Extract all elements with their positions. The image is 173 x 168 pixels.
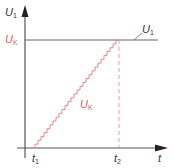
diagram-canvas: U1 UK U1 UK t1 t2 t <box>0 0 173 168</box>
y-axis-label-uk: UK <box>5 33 18 46</box>
u1-leader <box>134 33 142 40</box>
t1-label: t1 <box>32 152 39 165</box>
x-axis-arrow-icon <box>155 145 168 152</box>
x-axis-label-t: t <box>158 152 162 164</box>
y-axis-label-u1: U1 <box>5 6 17 19</box>
uk-ramp <box>35 40 119 148</box>
curve-label-u1: U1 <box>142 23 154 36</box>
curve-label-uk: UK <box>80 98 93 111</box>
t2-label: t2 <box>114 152 121 165</box>
y-axis-arrow-icon <box>22 5 29 17</box>
